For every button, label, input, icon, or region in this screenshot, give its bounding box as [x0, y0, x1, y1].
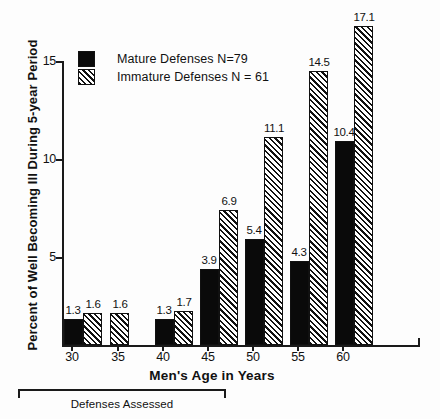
x-tick-label-45: 45: [188, 350, 228, 364]
defenses-assessed-label: Defenses Assessed: [18, 398, 226, 410]
x-tick-label-40: 40: [143, 350, 183, 364]
bar-value-immature-40: 1.7: [164, 296, 204, 308]
x-tick-label-30: 30: [52, 350, 92, 364]
bar-value-immature-35: 1.6: [100, 298, 140, 310]
legend-label-immature: Immature Defenses N = 61: [117, 70, 269, 84]
bar-value-immature-50: 11.1: [254, 122, 294, 134]
bar-immature-40: [174, 311, 193, 345]
bar-chart-figure: 15 10 5 30 35 40 45 50 55 60 1.3 1.6 1.6…: [0, 0, 440, 419]
x-tick-label-50: 50: [233, 350, 273, 364]
bar-mature-30: [64, 319, 83, 345]
y-tick-10: [56, 159, 64, 161]
legend-item-mature: Mature Defenses N=79: [78, 50, 269, 68]
legend-label-mature: Mature Defenses N=79: [117, 52, 248, 66]
bar-value-immature-45: 6.9: [209, 195, 249, 207]
bar-immature-60: [354, 26, 373, 345]
x-axis-title: Men's Age in Years: [62, 368, 362, 383]
bracket-right-tick: [224, 389, 226, 398]
bracket-left-tick: [18, 389, 20, 398]
bar-mature-40: [155, 319, 174, 345]
legend-swatch-immature-icon: [78, 69, 95, 85]
bar-mature-55: [290, 261, 309, 345]
bar-immature-35: [110, 313, 129, 345]
bar-mature-45: [200, 269, 219, 345]
y-tick-15: [56, 61, 64, 63]
bar-immature-50: [264, 137, 283, 345]
y-axis-title: Percent of Well Becoming Ill During 5-ye…: [25, 51, 40, 351]
plot-area: 15 10 5 30 35 40 45 50 55 60 1.3 1.6 1.6…: [0, 0, 440, 419]
legend-swatch-mature-icon: [78, 51, 95, 67]
bar-mature-60: [335, 141, 354, 345]
legend-item-immature: Immature Defenses N = 61: [78, 68, 269, 86]
x-tick-label-55: 55: [278, 350, 318, 364]
x-axis-line: [62, 345, 420, 347]
bar-value-immature-60: 17.1: [344, 11, 384, 23]
x-tick-label-60: 60: [323, 350, 363, 364]
bar-value-immature-55: 14.5: [299, 56, 339, 68]
y-tick-5: [56, 257, 64, 259]
x-tick-label-35: 35: [98, 350, 138, 364]
bar-immature-30: [83, 313, 102, 345]
bar-immature-55: [309, 71, 328, 345]
bracket-line: [18, 389, 226, 391]
bar-mature-50: [245, 239, 264, 345]
x-axis-end-tick: [418, 338, 420, 347]
chart-legend: Mature Defenses N=79 Immature Defenses N…: [78, 50, 269, 86]
